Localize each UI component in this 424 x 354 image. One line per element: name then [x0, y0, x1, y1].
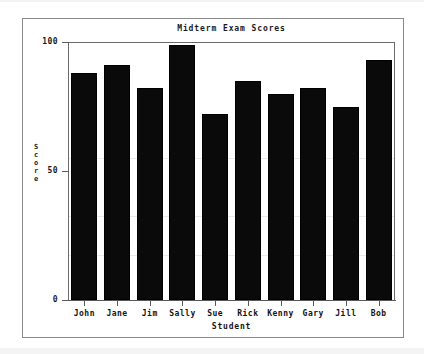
- x-tick-label-sue: Sue: [199, 309, 232, 318]
- y-tick-label-0: 0: [53, 296, 58, 304]
- x-tick-label-bob: Bob: [362, 309, 395, 318]
- x-tick: [84, 301, 85, 306]
- x-tick: [150, 301, 151, 306]
- x-axis-title: Student: [68, 322, 395, 331]
- y-tick: [62, 42, 69, 43]
- bar-chart-figure: Midterm Exam Scores 050100 Score JohnJan…: [0, 0, 424, 354]
- y-tick: [62, 300, 69, 301]
- bar-sue: [202, 114, 228, 300]
- bar-bob: [366, 60, 392, 300]
- bar-gary: [300, 88, 326, 300]
- y-axis-title-letter: r: [31, 167, 41, 175]
- bar-kenny: [268, 94, 294, 300]
- x-tick-label-jane: Jane: [101, 309, 134, 318]
- x-tick-label-jill: Jill: [330, 309, 363, 318]
- x-tick: [182, 301, 183, 306]
- x-tick-label-sally: Sally: [166, 309, 199, 318]
- bar-john: [71, 73, 97, 300]
- bar-jane: [104, 65, 130, 300]
- x-tick-label-kenny: Kenny: [264, 309, 297, 318]
- x-tick: [215, 301, 216, 306]
- x-tick: [379, 301, 380, 306]
- x-tick: [117, 301, 118, 306]
- y-axis-title-letter: e: [31, 175, 41, 183]
- x-tick-label-john: John: [68, 309, 101, 318]
- y-tick: [62, 171, 69, 172]
- x-tick: [346, 301, 347, 306]
- bar-jill: [333, 107, 359, 301]
- x-tick: [248, 301, 249, 306]
- y-tick-label-50: 50: [48, 167, 58, 175]
- chart-title: Midterm Exam Scores: [68, 24, 395, 34]
- y-axis-title-letter: S: [31, 143, 41, 151]
- x-tick-label-rick: Rick: [232, 309, 265, 318]
- y-axis-title-letter: o: [31, 159, 41, 167]
- y-tick-label-100: 100: [42, 38, 58, 46]
- bar-rick: [235, 81, 261, 300]
- x-tick: [313, 301, 314, 306]
- bars-group: [68, 42, 395, 300]
- x-tick-label-jim: Jim: [133, 309, 166, 318]
- bar-sally: [169, 45, 195, 300]
- scan-edge: [0, 0, 424, 2]
- y-axis-title-letter: c: [31, 151, 41, 159]
- x-tick-label-gary: Gary: [297, 309, 330, 318]
- x-tick: [281, 301, 282, 306]
- bar-jim: [137, 88, 163, 300]
- scan-edge: [0, 348, 424, 354]
- y-axis-title: Score: [31, 143, 41, 183]
